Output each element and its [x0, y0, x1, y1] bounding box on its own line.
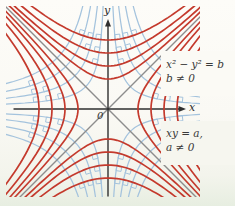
blue-family-constraint-label: a ≠ 0 — [166, 140, 194, 154]
x-axis-label: x — [189, 101, 195, 114]
blue-family-equation-label: xy = a, — [166, 126, 203, 140]
origin-label: 0 — [97, 110, 103, 121]
hyperbola-diagram-canvas — [0, 0, 235, 206]
red-family-constraint-label: b ≠ 0 — [166, 71, 195, 85]
hyperbola-figure: y x 0 x² − y² = b b ≠ 0 xy = a, a ≠ 0 — [0, 0, 235, 206]
y-axis-label: y — [104, 4, 110, 17]
red-family-equation-label: x² − y² = b — [166, 57, 224, 71]
